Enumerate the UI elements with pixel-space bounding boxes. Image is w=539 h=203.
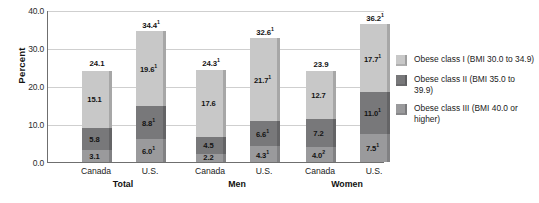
bar-segment[interactable]: 6.61 xyxy=(250,121,280,146)
bar-segment-value-label: 7.51 xyxy=(366,142,379,153)
bar-segment[interactable]: 17.71 xyxy=(360,24,390,91)
x-axis-group-label: Total xyxy=(113,179,133,189)
bar-total-label: 24.1 xyxy=(90,59,105,68)
bar-segment-value-label: 6.01 xyxy=(142,145,155,156)
bar-segment-value-label: 6.61 xyxy=(256,128,269,139)
bar-segment-value-label: 17.6 xyxy=(201,99,215,108)
legend-item-label: Obese class I (BMI 30.0 to 34.9) xyxy=(414,54,534,65)
x-axis-category-label: U.S. xyxy=(366,166,383,176)
legend-swatch-icon xyxy=(396,75,407,86)
bar-segment-value-label: 4.5 xyxy=(203,141,213,150)
bar-total-label: 23.9 xyxy=(314,60,329,69)
bar-total-label: 32.61 xyxy=(256,26,274,37)
bar-segment-value-label: 3.1 xyxy=(89,152,99,161)
bar-segment-value-label: 8.81 xyxy=(142,117,155,128)
legend-item-label: Obese class III (BMI 40.0 or higher) xyxy=(414,103,536,124)
bar-segment[interactable]: 4.02 xyxy=(306,147,336,162)
bar-segment[interactable]: 6.01 xyxy=(136,139,166,162)
y-axis-tick-label: 0.0 xyxy=(10,158,44,168)
bar-segment-value-label: 4.31 xyxy=(256,149,269,160)
bar-segment[interactable]: 3.1 xyxy=(82,150,112,162)
bar-segment[interactable]: 8.81 xyxy=(136,106,166,139)
bar-stack[interactable]: 17.64.52.224.31 xyxy=(196,70,226,162)
bar-segment[interactable]: 4.31 xyxy=(250,146,280,162)
plot-area: 15.15.83.124.119.618.816.0134.4117.64.52… xyxy=(47,11,384,163)
bar-segment[interactable]: 7.51 xyxy=(360,134,390,163)
x-axis-category-label: Canada xyxy=(305,166,335,176)
bar-segment-value-label: 21.71 xyxy=(254,74,271,85)
x-axis-group-label: Men xyxy=(228,179,246,189)
bar-segment[interactable]: 12.7 xyxy=(306,71,336,119)
bar-total-label: 24.31 xyxy=(202,57,220,68)
y-axis-tick-label: 20.0 xyxy=(10,82,44,92)
bar-segment-value-label: 17.71 xyxy=(364,53,381,64)
chart-legend: Obese class I (BMI 30.0 to 34.9)Obese cl… xyxy=(396,54,536,132)
bar-segment-value-label: 5.8 xyxy=(89,135,99,144)
x-axis-group-label: Women xyxy=(331,179,363,189)
bar-stack[interactable]: 15.15.83.124.1 xyxy=(82,71,112,162)
bar-total-label: 36.21 xyxy=(366,12,384,23)
y-axis-tick-label: 30.0 xyxy=(10,44,44,54)
x-axis-category-label: U.S. xyxy=(256,166,273,176)
bar-segment[interactable]: 17.6 xyxy=(196,70,226,137)
bar-segment-value-label: 15.1 xyxy=(87,95,101,104)
bar-segment[interactable]: 2.2 xyxy=(196,154,226,162)
bar-segment[interactable]: 15.1 xyxy=(82,71,112,128)
gridline xyxy=(48,49,384,50)
legend-item[interactable]: Obese class III (BMI 40.0 or higher) xyxy=(396,103,536,124)
chart-container: Percent 0.010.020.030.040.0 15.15.83.124… xyxy=(0,0,539,203)
y-axis-ticks: 0.010.020.030.040.0 xyxy=(8,0,44,203)
legend-item[interactable]: Obese class II (BMI 35.0 to 39.9) xyxy=(396,74,536,95)
bar-segment-value-label: 11.01 xyxy=(364,107,381,118)
bar-segment[interactable]: 5.8 xyxy=(82,128,112,150)
bar-segment-value-label: 2.2 xyxy=(203,153,213,162)
gridline xyxy=(48,11,384,12)
legend-swatch-icon xyxy=(396,55,407,66)
bar-segment[interactable]: 7.2 xyxy=(306,119,336,146)
bar-segment[interactable]: 11.01 xyxy=(360,92,390,134)
x-axis-category-label: U.S. xyxy=(142,166,159,176)
bar-stack[interactable]: 19.618.816.0134.41 xyxy=(136,31,166,162)
legend-swatch-icon xyxy=(396,104,407,115)
x-axis-category-label: Canada xyxy=(195,166,225,176)
bar-segment-value-label: 7.2 xyxy=(313,129,323,138)
legend-item[interactable]: Obese class I (BMI 30.0 to 34.9) xyxy=(396,54,536,66)
bar-stack[interactable]: 17.7111.017.5136.21 xyxy=(360,24,390,162)
bar-segment-value-label: 4.02 xyxy=(312,149,325,160)
y-axis-tick-label: 10.0 xyxy=(10,120,44,130)
bar-segment[interactable]: 21.71 xyxy=(250,38,280,120)
bar-segment-value-label: 12.7 xyxy=(311,91,325,100)
bar-segment[interactable]: 4.5 xyxy=(196,137,226,154)
bar-segment-value-label: 19.61 xyxy=(140,63,157,74)
bar-stack[interactable]: 12.77.24.0223.9 xyxy=(306,71,336,162)
bar-total-label: 34.41 xyxy=(142,19,160,30)
bar-segment[interactable]: 19.61 xyxy=(136,31,166,105)
bar-stack[interactable]: 21.716.614.3132.61 xyxy=(250,38,280,162)
legend-item-label: Obese class II (BMI 35.0 to 39.9) xyxy=(414,74,536,95)
x-axis-category-label: Canada xyxy=(81,166,111,176)
y-axis-tick-label: 40.0 xyxy=(10,6,44,16)
